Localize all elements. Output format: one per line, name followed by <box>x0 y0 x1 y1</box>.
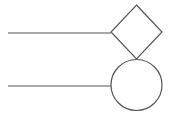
node-circle <box>111 60 162 111</box>
diagram-canvas <box>0 0 172 116</box>
decision-diamond <box>111 5 162 59</box>
diagram-svg <box>0 0 172 116</box>
